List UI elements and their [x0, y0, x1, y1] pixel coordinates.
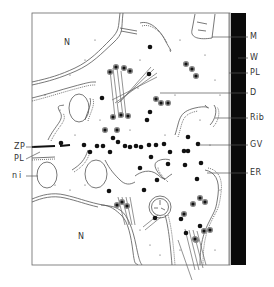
nucleus-label-bottom: N — [78, 232, 84, 241]
label-er: ER — [250, 168, 262, 177]
label-golgi-vesicles: GV — [250, 140, 263, 149]
label-zp: ZP — [14, 142, 25, 151]
nucleus-label-top: N — [64, 38, 70, 47]
label-ribosomes: Rib — [250, 113, 264, 122]
label-mitochondrion: M — [250, 32, 257, 41]
label-wall: W — [250, 53, 258, 62]
cell-diagram — [0, 0, 274, 287]
label-dictyosome: D — [250, 88, 257, 97]
label-ni: ni — [12, 171, 23, 180]
label-pl-left: PL — [14, 154, 24, 163]
label-plasmalemma: PL — [250, 68, 260, 77]
cell-wall — [231, 13, 246, 265]
